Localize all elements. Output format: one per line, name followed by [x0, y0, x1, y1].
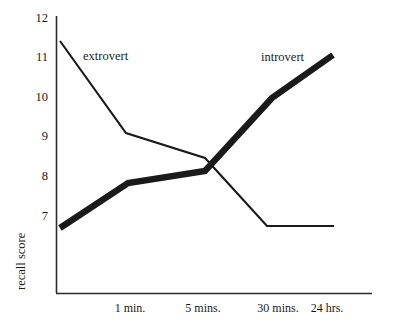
chart-plot-area	[0, 0, 418, 334]
x-tick-label-1-min: 1 min.	[100, 302, 160, 314]
y-axis-title: recall score	[14, 233, 29, 290]
y-tick-label-9: 9	[26, 130, 48, 143]
recall-score-line-chart: 12 11 10 9 8 7 recall score 1 min. 5 min…	[0, 0, 418, 334]
y-tick-label-10: 10	[26, 91, 48, 104]
y-tick-label-12: 12	[26, 12, 48, 25]
series-line-introvert	[60, 55, 333, 228]
series-annotation-extrovert: extrovert	[83, 49, 128, 64]
y-tick-label-8: 8	[26, 170, 48, 183]
series-annotation-introvert: introvert	[261, 50, 304, 65]
x-tick-label-5-mins: 5 mins.	[173, 302, 233, 314]
y-tick-label-11: 11	[26, 51, 48, 64]
x-tick-label-24-hrs: 24 hrs.	[297, 302, 357, 314]
y-tick-label-7: 7	[26, 210, 48, 223]
